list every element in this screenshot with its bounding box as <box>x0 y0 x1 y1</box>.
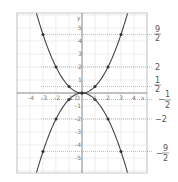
svg-text:−: − <box>158 95 165 104</box>
svg-text:-4: -4 <box>75 141 81 148</box>
data-point <box>107 118 110 121</box>
svg-text:1: 1 <box>165 90 170 99</box>
svg-text:3: 3 <box>119 94 123 101</box>
parabola-chart: -4-3-2-1123454321-1-2-3-4-5 x y O 9 2 2 … <box>0 0 178 182</box>
svg-text:-2: -2 <box>75 115 81 122</box>
svg-text:-2: -2 <box>54 94 60 101</box>
right-label-2: 2 <box>155 63 160 72</box>
svg-text:2: 2 <box>155 34 160 43</box>
svg-text:9: 9 <box>163 144 168 153</box>
y-axis-label: y <box>77 14 81 22</box>
svg-text:-3: -3 <box>41 94 47 101</box>
right-label-neg-2: −2 <box>155 115 167 124</box>
data-point <box>120 150 123 153</box>
svg-text:2: 2 <box>165 101 170 110</box>
data-point <box>94 85 97 88</box>
data-point <box>81 92 84 95</box>
svg-text:-5: -5 <box>75 154 81 161</box>
svg-text:−: − <box>156 149 163 158</box>
svg-text:-1: -1 <box>67 94 73 101</box>
svg-text:-1: -1 <box>75 102 81 109</box>
origin-label: O <box>75 94 80 101</box>
svg-text:4: 4 <box>132 94 136 101</box>
data-point <box>55 66 58 69</box>
svg-text:9: 9 <box>155 25 160 34</box>
svg-text:4: 4 <box>78 37 82 44</box>
svg-text:2: 2 <box>155 85 160 94</box>
svg-text:1: 1 <box>93 94 97 101</box>
svg-text:3: 3 <box>78 50 82 57</box>
svg-text:2: 2 <box>78 63 82 70</box>
data-point <box>55 118 58 121</box>
right-label-9-over-2: 9 2 <box>154 25 161 43</box>
svg-text:5: 5 <box>78 24 82 31</box>
svg-text:1: 1 <box>155 76 160 85</box>
right-label-neg-9-over-2: − 9 2 <box>156 144 169 163</box>
data-point <box>42 33 45 36</box>
data-point <box>68 85 71 88</box>
data-point <box>120 33 123 36</box>
svg-text:-3: -3 <box>75 128 81 135</box>
right-label-1-over-2: 1 2 <box>154 76 161 94</box>
data-point <box>42 150 45 153</box>
x-axis-label: x <box>141 94 145 101</box>
svg-text:2: 2 <box>163 154 168 163</box>
svg-text:-4: -4 <box>28 94 34 101</box>
svg-text:2: 2 <box>106 94 110 101</box>
data-point <box>107 66 110 69</box>
svg-text:1: 1 <box>78 76 82 83</box>
